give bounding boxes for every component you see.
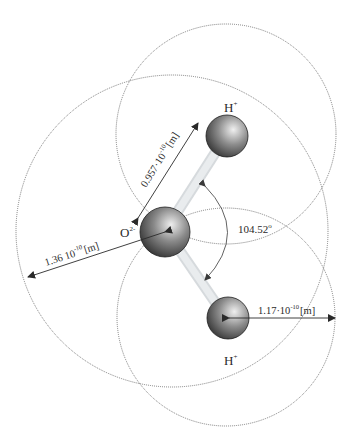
oxygen-label: O2- [120,225,136,240]
oxygen-radius-arrow [28,232,165,277]
water-molecule-diagram: H+ H+ O2- 0.957·10-10[m] 1.36 10-10[m] 1… [0,0,354,444]
hydrogen-top-label: H+ [224,100,237,115]
hydrogen-radius-label: 1.17·10-10[m] [258,303,315,316]
bond-angle-label: 104.52o [238,222,272,235]
bond-angle-arc [205,186,228,280]
hydrogen-bottom-label: H+ [224,353,237,368]
oxygen-radius-label: 1.36 10-10[m] [43,238,101,268]
hydrogen-top-atom [206,115,248,157]
bond-length-label: 0.957·10-10[m] [137,129,181,189]
